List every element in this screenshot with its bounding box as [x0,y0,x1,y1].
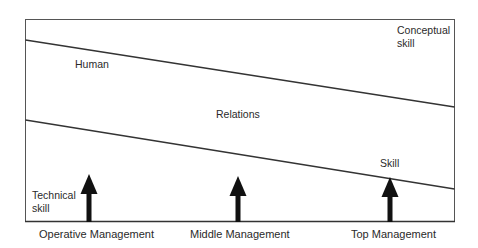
relations-label: Relations [216,108,260,121]
human-label: Human [75,58,109,71]
technical-skill-label: Technical skill [32,189,76,214]
level-label-top: Top Management [351,228,436,241]
conceptual-skill-label: Conceptual skill [397,24,450,49]
arrow-up-icon-middle [230,176,247,222]
arrow-up-icon-top [382,177,399,222]
skill-label: Skill [380,157,399,170]
upper-divider-line [26,40,455,107]
arrow-up-icon-operative [81,174,98,222]
level-label-middle: Middle Management [190,228,290,241]
level-label-operative: Operative Management [39,228,154,241]
